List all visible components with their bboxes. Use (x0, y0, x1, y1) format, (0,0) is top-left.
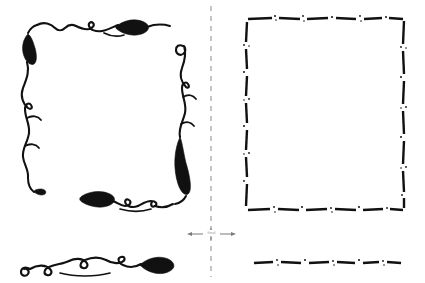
dashed-rectangle-left (243, 22, 250, 206)
bottom-horizontal-vine (80, 192, 173, 212)
left-vertical-vine (22, 62, 46, 195)
dashed-rectangle-right (400, 21, 407, 208)
arrow-head-left-icon (187, 232, 192, 236)
comparison-figure (0, 0, 425, 283)
detached-bottom-flourish (21, 257, 174, 276)
figure-canvas: final (0, 0, 425, 283)
detached-dashed-rule (254, 259, 401, 266)
ornate-flourish-frame (21, 20, 196, 276)
top-left-corner-leaf-icon (23, 25, 37, 65)
right-vertical-vine (175, 45, 196, 204)
transform-arrow-label: final (203, 230, 220, 235)
dashed-rectangle-top (248, 15, 403, 22)
dashed-frame (243, 15, 407, 266)
top-horizontal-vine (37, 20, 170, 36)
arrow-head-right-icon (231, 232, 236, 236)
dashed-rectangle-bottom (248, 206, 403, 213)
